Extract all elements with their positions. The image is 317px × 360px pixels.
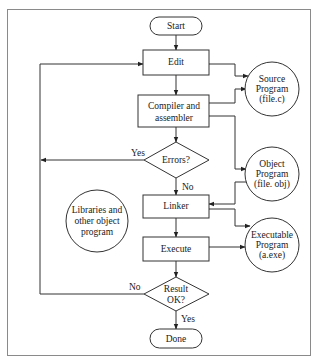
node-execute: Execute (143, 237, 209, 261)
node-result-label-1: Result (164, 284, 189, 294)
node-start-label: Start (167, 21, 185, 31)
node-result-label-2: OK? (167, 295, 185, 305)
node-done: Done (150, 329, 202, 348)
node-source-label-3: (file.c) (259, 94, 285, 105)
edge-label-result-no: No (129, 282, 141, 292)
node-start: Start (150, 17, 202, 35)
node-errors-label: Errors? (162, 155, 190, 165)
node-executable-label-1: Executable (251, 230, 293, 240)
node-executable-label-3: (a.exe) (259, 250, 285, 261)
flowchart-diagram: Start Edit Compiler and assembler Errors… (0, 0, 317, 360)
node-object-label-3: (file. obj) (254, 179, 290, 190)
node-libraries-label-2: other object (74, 216, 119, 226)
node-compile-label-1: Compiler and (148, 101, 200, 111)
node-edit: Edit (143, 50, 209, 75)
node-compile: Compiler and assembler (138, 95, 209, 127)
node-linker: Linker (143, 195, 209, 218)
edge-label-result-yes: Yes (181, 314, 195, 324)
node-execute-label: Execute (161, 244, 192, 254)
node-object-label-2: Program (256, 169, 289, 179)
node-libraries-label-1: Libraries and (72, 205, 123, 215)
node-source-label-2: Program (256, 84, 289, 94)
node-edit-label: Edit (168, 57, 184, 67)
node-done-label: Done (166, 334, 187, 344)
node-linker-label: Linker (163, 201, 189, 211)
node-object: Object Program (file. obj) (245, 147, 299, 201)
node-libraries-label-3: program (81, 227, 114, 237)
node-source-label-1: Source (259, 74, 285, 84)
node-source: Source Program (file.c) (245, 62, 299, 116)
node-compile-label-2: assembler (155, 113, 194, 123)
edge-label-errors-yes: Yes (131, 148, 145, 158)
node-executable: Executable Program (a.exe) (245, 218, 299, 272)
node-executable-label-2: Program (256, 240, 289, 250)
node-object-label-1: Object (259, 159, 285, 169)
node-libraries: Libraries and other object program (66, 190, 128, 252)
edge-label-errors-no: No (182, 182, 194, 192)
